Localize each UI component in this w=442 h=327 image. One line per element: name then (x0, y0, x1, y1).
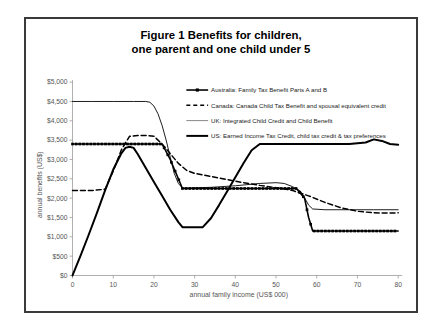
series-marker (394, 230, 397, 233)
series-marker (82, 143, 85, 146)
y-axis-tick-label: $1,000 (47, 233, 68, 240)
legend-label: US: Earned Income Tax Credit, child tax … (211, 132, 386, 139)
legend-label: Canada: Canada Child Tax Benefit and spo… (211, 102, 386, 109)
series-marker (104, 143, 107, 146)
series-marker (306, 208, 309, 211)
series-marker (144, 143, 147, 146)
series-marker (232, 187, 235, 190)
series-marker (111, 143, 114, 146)
series-marker (79, 143, 82, 146)
chart-title-line-2: one parent and one child under 5 (132, 43, 311, 55)
series-marker (100, 143, 103, 146)
y-axis-tick-label: $2,500 (47, 175, 68, 182)
y-axis-tick-label: $500 (53, 253, 68, 260)
y-axis-tick-label: $2,000 (47, 195, 68, 202)
series-marker (130, 143, 133, 146)
series-marker (265, 187, 268, 190)
series-marker (254, 187, 257, 190)
legend-item-2[interactable]: UK: Integrated Child Credit and Child Be… (186, 117, 332, 124)
x-axis-tick-label: 50 (272, 281, 280, 288)
x-axis-tick-label: 10 (109, 281, 117, 288)
y-axis-tick-label: $3,000 (47, 156, 68, 163)
x-axis-title: annual family income (US$ 000) (190, 291, 288, 299)
series-marker (350, 230, 353, 233)
x-axis-tick-label: 60 (313, 281, 321, 288)
series-marker (324, 230, 327, 233)
series-marker (108, 143, 111, 146)
series-marker (251, 187, 254, 190)
series-marker (357, 230, 360, 233)
y-axis-title: annual benefits (US$) (36, 151, 44, 218)
series-marker (368, 230, 371, 233)
y-axis-tick-label: $4,000 (47, 117, 68, 124)
series-marker (71, 143, 74, 146)
legend-label: UK: Integrated Child Credit and Child Be… (211, 117, 333, 124)
series-marker (328, 230, 331, 233)
series-marker (313, 230, 316, 233)
series-marker (214, 187, 217, 190)
series-marker (137, 143, 140, 146)
series-marker (361, 230, 364, 233)
series-marker (320, 230, 323, 233)
series-marker (115, 143, 118, 146)
x-axis-tick-label: 20 (150, 281, 158, 288)
figure-frame: Figure 1 Benefits for children, one pare… (24, 17, 418, 313)
series-marker (240, 187, 243, 190)
legend-label: Australia: Family Tax Benefit Parts A an… (211, 86, 327, 93)
x-axis-tick-label: 0 (71, 281, 75, 288)
series-marker (317, 230, 320, 233)
chart-legend: Australia: Family Tax Benefit Parts A an… (186, 86, 386, 139)
series-marker (342, 230, 345, 233)
y-axis: $0$500$1,000$1,500$2,000$2,500$3,000$3,5… (47, 79, 72, 279)
series-marker (331, 230, 334, 233)
series-marker (262, 187, 265, 190)
series-marker (379, 230, 382, 233)
series-line-0 (73, 144, 399, 231)
series-marker (236, 187, 239, 190)
y-axis-tick-label: $3,500 (47, 137, 68, 144)
series-marker (364, 230, 367, 233)
y-axis-tick-label: $1,500 (47, 214, 68, 221)
legend-item-0[interactable]: Australia: Family Tax Benefit Parts A an… (186, 86, 327, 93)
x-axis-tick-label: 80 (394, 281, 402, 288)
chart-title-line-1: Figure 1 Benefits for children, (140, 29, 301, 41)
series-marker (177, 178, 180, 181)
series-line-3 (73, 139, 399, 275)
series-marker (346, 230, 349, 233)
series-marker (126, 143, 129, 146)
x-axis: 01020304050607080 (71, 275, 403, 288)
data-series-group (71, 101, 398, 275)
series-marker (375, 230, 378, 233)
series-marker (243, 187, 246, 190)
series-marker (353, 230, 356, 233)
series-marker (75, 143, 78, 146)
chart-title: Figure 1 Benefits for children, one pare… (132, 29, 311, 55)
legend-item-3[interactable]: US: Earned Income Tax Credit, child tax … (186, 132, 385, 139)
series-marker (166, 154, 169, 157)
x-axis-tick-label: 40 (232, 281, 240, 288)
series-marker (221, 187, 224, 190)
series-marker (390, 230, 393, 233)
x-axis-tick-label: 70 (354, 281, 362, 288)
series-marker (247, 187, 250, 190)
series-marker (258, 187, 261, 190)
series-marker (155, 143, 158, 146)
legend-swatch-marker (196, 88, 199, 91)
series-marker (339, 230, 342, 233)
series-marker (97, 143, 100, 146)
series-marker (90, 143, 93, 146)
series-marker (386, 230, 389, 233)
benefits-line-chart: Figure 1 Benefits for children, one pare… (26, 19, 416, 311)
x-axis-tick-label: 30 (191, 281, 199, 288)
series-marker (218, 187, 221, 190)
y-axis-tick-label: $5,000 (47, 79, 68, 86)
series-marker (93, 143, 96, 146)
series-marker (372, 230, 375, 233)
series-marker (152, 143, 155, 146)
series-line-1 (73, 136, 399, 214)
legend-item-1[interactable]: Canada: Canada Child Tax Benefit and spo… (186, 102, 386, 109)
series-marker (335, 230, 338, 233)
y-axis-tick-label: $0 (60, 272, 68, 279)
series-marker (309, 223, 312, 226)
series-marker (383, 230, 386, 233)
